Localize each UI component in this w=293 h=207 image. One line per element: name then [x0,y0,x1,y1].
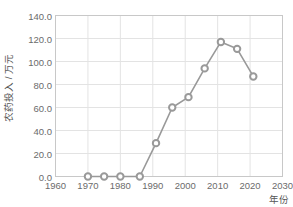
data-point [85,173,91,179]
data-point [153,140,159,146]
data-point [250,73,256,79]
data-markers [85,39,257,180]
axis-frame [56,16,283,177]
data-point [218,39,224,45]
data-point [201,65,207,71]
data-point [117,173,123,179]
pesticide-input-line-chart: 农药投入 / 万元 0.020.040.060.080.0100.0120.01… [0,0,293,207]
plot-area [0,0,293,207]
data-point [185,94,191,100]
data-point [137,173,143,179]
data-point [101,173,107,179]
x-axis-title: 年份 [269,192,289,206]
plot-frame [56,16,283,177]
data-point [169,104,175,110]
gridlines [56,16,283,177]
data-point [234,46,240,52]
